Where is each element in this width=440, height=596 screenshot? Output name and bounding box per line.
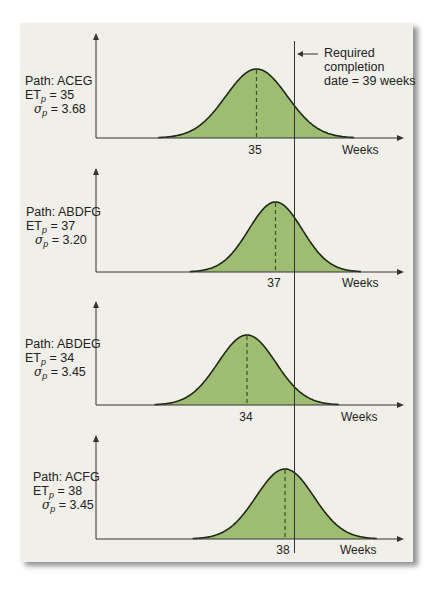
annotation-arrow-icon [297,51,303,57]
chart-2-y-axis-arrow-icon [93,168,99,175]
chart-1-stats: Path: ACEG ETp = 35 σp = 3.68 [25,74,92,116]
chart-4-x-label: Weeks [340,543,376,557]
chart-4-x-axis-arrow-icon [397,536,404,542]
chart-4-y-axis-arrow-icon [93,435,99,442]
chart-4-sigma: σp = 3.45 [33,498,100,512]
chart-1-sigma: σp = 3.68 [25,102,92,116]
chart-1-x-axis-arrow-icon [397,135,404,141]
chart-3-stats: Path: ABDEG ETp = 34 σp = 3.45 [25,337,101,379]
chart-3-sigma: σp = 3.45 [25,365,101,379]
chart-2-x-label: Weeks [342,276,378,290]
chart-3-mean-tick: 34 [231,410,261,424]
chart-3-et: ETp = 34 [25,351,101,365]
chart-4-path-label: Path: ACFG [33,470,100,484]
chart-1-y-axis-arrow-icon [93,33,99,40]
chart-1-mean-tick: 35 [240,143,270,157]
chart-2-sigma: σp = 3.20 [26,233,101,247]
chart-2-path-label: Path: ABDFG [26,205,101,219]
chart-1-path-label: Path: ACEG [25,74,92,88]
chart-3-x-axis-arrow-icon [397,402,404,408]
sigma-symbol: σ [34,102,42,116]
sigma-symbol: σ [35,233,43,247]
chart-3-x-label: Weeks [341,410,377,424]
chart-2-x-axis-arrow-icon [397,269,404,275]
chart-2-stats: Path: ABDFG ETp = 37 σp = 3.20 [26,205,101,247]
chart-3-path-label: Path: ABDEG [25,337,101,351]
sigma-symbol: σ [42,498,50,512]
chart-1-et: ETp = 35 [25,88,92,102]
chart-4-et: ETp = 38 [33,484,100,498]
chart-4-stats: Path: ACFG ETp = 38 σp = 3.45 [33,470,100,512]
sigma-symbol: σ [34,365,42,379]
chart-3-y-axis-arrow-icon [93,301,99,308]
chart-2-mean-tick: 37 [259,276,289,290]
required-date-annotation: Required completion date = 39 weeks [324,46,415,88]
chart-1-x-label: Weeks [342,143,378,157]
chart-4-mean-tick: 38 [268,543,298,557]
chart-2-et: ETp = 37 [26,219,101,233]
